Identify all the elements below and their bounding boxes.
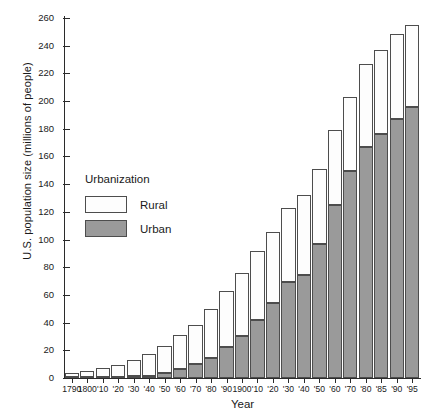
- bar-segment-urban: [219, 347, 233, 378]
- y-tick-label: 260: [12, 11, 54, 24]
- bar-segment-urban: [188, 364, 202, 378]
- bar-70: [343, 97, 357, 378]
- bar-segment-urban: [250, 320, 264, 378]
- legend-swatch-rural: [85, 196, 127, 213]
- x-tick-label: '80: [360, 384, 371, 395]
- x-tick-mark: [288, 378, 289, 383]
- x-tick-mark: [149, 378, 150, 383]
- legend-swatch-urban: [85, 220, 127, 237]
- bar-40: [297, 196, 311, 378]
- bar-10: [250, 251, 264, 378]
- bar-segment-urban: [235, 336, 249, 378]
- bar-segment-urban: [312, 244, 326, 378]
- bar-90: [390, 34, 404, 378]
- bar-segment-rural: [157, 346, 171, 373]
- bar-1900: [235, 273, 249, 378]
- x-tick-label: '30: [128, 384, 139, 395]
- bar-20: [111, 365, 125, 378]
- y-tick-label: 80: [12, 260, 54, 273]
- x-tick-label: '85: [376, 384, 387, 395]
- bar-segment-rural: [142, 354, 156, 375]
- bar-1800: [80, 371, 94, 378]
- x-tick-mark: [397, 378, 398, 383]
- bar-70: [188, 325, 202, 378]
- y-tick-label: 40: [12, 316, 54, 329]
- x-tick-label: '40: [298, 384, 309, 395]
- bar-segment-urban: [204, 358, 218, 378]
- bar-segment-urban: [359, 147, 373, 378]
- x-tick-mark: [366, 378, 367, 383]
- bar-segment-rural: [343, 97, 357, 171]
- bar-segment-rural: [188, 325, 202, 365]
- x-tick-mark: [257, 378, 258, 383]
- x-tick-mark: [412, 378, 413, 383]
- bar-40: [142, 354, 156, 378]
- x-tick-mark: [335, 378, 336, 383]
- bar-segment-rural: [390, 34, 404, 119]
- x-tick-label: '60: [329, 384, 340, 395]
- legend-title: Urbanization: [85, 173, 171, 185]
- y-tick-label: 120: [12, 205, 54, 218]
- bar-segment-rural: [297, 195, 311, 274]
- x-tick-mark: [134, 378, 135, 383]
- x-tick-label: '90: [221, 384, 232, 395]
- y-tick-label: 60: [12, 288, 54, 301]
- legend: Urbanization RuralUrban: [85, 173, 171, 244]
- bar-segment-urban: [297, 275, 311, 378]
- bar-segment-rural: [312, 169, 326, 244]
- x-tick-mark: [273, 378, 274, 383]
- bar-segment-rural: [235, 273, 249, 336]
- x-tick-mark: [103, 378, 104, 383]
- population-urbanization-chart: U.S. population size (millions of people…: [0, 0, 434, 419]
- x-tick-mark: [180, 378, 181, 383]
- bar-segment-rural: [359, 64, 373, 146]
- x-tick-label: '50: [314, 384, 325, 395]
- x-tick-mark: [227, 378, 228, 383]
- bar-80: [359, 64, 373, 378]
- x-axis-title: Year: [64, 398, 421, 410]
- bar-segment-urban: [390, 119, 404, 378]
- y-tick-label: 200: [12, 94, 54, 107]
- x-tick-mark: [242, 378, 243, 383]
- x-tick-label: '20: [267, 384, 278, 395]
- bar-95: [405, 25, 419, 378]
- bar-segment-rural: [219, 291, 233, 347]
- bar-10: [96, 368, 110, 378]
- x-tick-label: '10: [252, 384, 263, 395]
- y-tick-label: 20: [12, 343, 54, 356]
- x-tick-mark: [72, 378, 73, 383]
- bar-80: [204, 309, 218, 379]
- bar-50: [157, 346, 171, 378]
- bar-segment-urban: [281, 282, 295, 378]
- legend-entry-rural: Rural: [85, 196, 171, 213]
- bar-segment-urban: [343, 171, 357, 378]
- x-tick-label: '90: [391, 384, 402, 395]
- bar-85: [374, 50, 388, 378]
- x-tick-label: '20: [113, 384, 124, 395]
- bar-segment-rural: [374, 50, 388, 134]
- x-tick-mark: [87, 378, 88, 383]
- x-tick-mark: [350, 378, 351, 383]
- x-tick-mark: [211, 378, 212, 383]
- bar-segment-rural: [127, 360, 141, 376]
- x-tick-mark: [381, 378, 382, 383]
- x-tick-label: '60: [174, 384, 185, 395]
- bar-20: [266, 232, 280, 378]
- x-tick-label: 1900: [232, 384, 251, 395]
- bar-segment-rural: [328, 130, 342, 205]
- bar-30: [127, 360, 141, 378]
- bar-segment-urban: [405, 107, 419, 378]
- x-tick-label: '70: [345, 384, 356, 395]
- x-tick-label: '40: [144, 384, 155, 395]
- legend-entry-urban: Urban: [85, 220, 171, 237]
- bar-90: [219, 291, 233, 378]
- x-tick-label: '80: [205, 384, 216, 395]
- bar-segment-rural: [405, 25, 419, 107]
- y-tick-label: 100: [12, 233, 54, 246]
- y-tick-label: 160: [12, 149, 54, 162]
- y-tick-label: 240: [12, 39, 54, 52]
- bar-60: [328, 130, 342, 378]
- x-tick-label: '95: [407, 384, 418, 395]
- x-tick-mark: [319, 378, 320, 383]
- y-tick-label: 140: [12, 177, 54, 190]
